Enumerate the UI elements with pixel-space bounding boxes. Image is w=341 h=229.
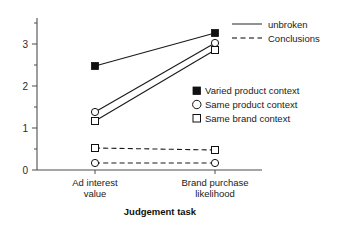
- marker-conclusions-same-product-context-p1: [91, 159, 98, 166]
- x-category-label-1-line2: value: [84, 188, 107, 199]
- legend-same-product-context-label: Same product context: [205, 99, 298, 110]
- legend-open-circle-swatch: [193, 100, 201, 108]
- series-line-conclusions-same-brand-context: [95, 148, 215, 150]
- y-tick-label-1: 1: [22, 123, 28, 134]
- marker-varied-product-context-p2: [212, 30, 219, 37]
- marker-same-product-context-p2: [211, 39, 218, 46]
- legend-solid-line-label: unbroken: [268, 19, 308, 30]
- chart-container: 0 1 2 3 Ad interest value: [0, 0, 341, 229]
- legend-varied-product-context-label: Varied product context: [205, 85, 300, 96]
- x-axis-title: Judgement task: [124, 206, 197, 217]
- marker-conclusions-same-product-context-p2: [211, 159, 218, 166]
- marker-conclusions-same-brand-context-p2: [212, 147, 219, 154]
- legend-filled-square-swatch: [193, 87, 201, 95]
- y-tick-label-0: 0: [22, 165, 28, 176]
- marker-conclusions-same-brand-context-p1: [92, 145, 99, 152]
- x-category-label-2-line2: likelihood: [195, 188, 235, 199]
- marker-same-brand-context-p1: [92, 118, 99, 125]
- line-chart: 0 1 2 3 Ad interest value: [0, 0, 341, 229]
- marker-varied-product-context-p1: [92, 63, 99, 70]
- y-tick-label-3: 3: [22, 39, 28, 50]
- legend-same-brand-context-label: Same brand context: [205, 113, 290, 124]
- y-tick-label-2: 2: [22, 81, 28, 92]
- x-axis-ticks: [95, 170, 215, 174]
- legend-dashed-line-label: Conclusions: [268, 33, 320, 44]
- legend-open-square-swatch: [193, 115, 201, 123]
- line-style-legend: unbroken Conclusions: [232, 19, 320, 44]
- marker-same-product-context-p1: [91, 108, 98, 115]
- marker-same-brand-context-p2: [212, 47, 219, 54]
- marker-legend: Varied product context Same product cont…: [193, 85, 300, 124]
- x-category-label-1-line1: Ad interest: [72, 177, 118, 188]
- x-category-label-2-line1: Brand purchase: [181, 177, 248, 188]
